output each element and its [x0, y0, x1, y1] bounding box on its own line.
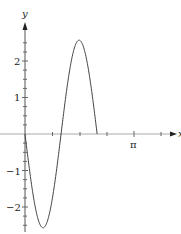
y-tick-label-1: 1: [14, 92, 20, 103]
x-tick-label-pi: π: [130, 139, 137, 150]
y-tick-label-neg1: −1: [6, 166, 21, 177]
x-axis-label: x: [178, 128, 181, 139]
y-axis-arrow-icon: [23, 22, 28, 30]
y-tick-label-2: 2: [14, 56, 20, 67]
y-tick-label-neg2: −2: [6, 202, 21, 213]
y-axis-label: y: [21, 8, 28, 19]
x-axis-arrow-icon: [170, 132, 177, 137]
chart-plot: x y π 2 1 −1 −2: [0, 0, 181, 234]
